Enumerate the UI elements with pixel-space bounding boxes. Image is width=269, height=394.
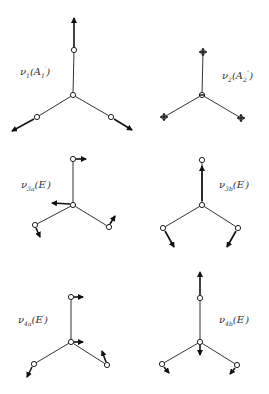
symmetry-species: A [34,66,41,77]
displacement-arrow-icon [114,119,132,130]
symmetry-prime: ′ [43,313,44,320]
symmetry-prime: ′ [45,65,46,72]
terminal-atom [32,222,37,227]
mode-v2-molecule [160,48,245,122]
terminal-atom [199,157,204,162]
central-atom [70,202,75,207]
mode-label-v3b: ν3b(E′) [219,178,249,192]
symmetry-species: A [236,70,243,81]
symmetry-subscript: 2 [243,76,247,83]
displacement-arrow-icon [27,367,32,377]
mode-label-v1: ν1(A1′) [20,65,50,79]
vibrational-modes-diagram [0,0,269,394]
displacement-arrow-icon [12,119,34,131]
mode-label-v4b: ν4b(E′) [219,313,249,327]
terminal-atom [106,224,111,229]
symmetry-prime: ′ [244,313,245,320]
mode-index: 3a [27,185,34,192]
displacement-arrow-icon [230,368,235,374]
mode-label-v3a: ν3a(E′) [21,178,51,192]
mode-v3a-molecule [32,156,115,237]
terminal-atom [235,225,240,230]
terminal-atom [108,114,113,119]
central-atom [68,339,73,344]
displacement-arrow-icon [52,203,70,204]
terminal-atom [104,362,109,367]
central-atom [70,92,75,97]
plus-out-of-plane-icon [199,48,207,56]
symmetry-prime: ″ [247,69,249,76]
symmetry-species: E [237,179,244,190]
displacement-arrow-icon [165,231,174,247]
terminal-atom [197,295,202,300]
displacement-arrow-icon [102,351,106,362]
displacement-arrow-icon [227,231,236,247]
mode-index: 4b [225,320,233,327]
terminal-atom [31,361,36,366]
displacement-arrow-icon [36,228,40,237]
symmetry-species: E [35,314,42,325]
plus-out-of-plane-icon [237,114,245,122]
terminal-atom [159,361,164,366]
terminal-atom [34,114,39,119]
terminal-atom [234,362,239,367]
central-atom [197,339,202,344]
symmetry-species: E [237,314,244,325]
displacement-arrow-icon [110,216,115,224]
mode-index: 3b [225,185,233,192]
symmetry-species: E [38,179,45,190]
mode-label-v2: ν2(A2″) [222,69,253,83]
mode-v3b-molecule [160,157,240,247]
symmetry-prime: ′ [46,178,47,185]
terminal-atom [70,156,75,161]
symmetry-subscript: 1 [41,72,45,79]
terminal-atom [160,225,165,230]
symmetry-prime: ′ [244,178,245,185]
mode-index: 4a [24,320,31,327]
plus-out-of-plane-icon [160,113,168,121]
terminal-atom [68,294,73,299]
mode-index: 2 [228,76,232,83]
mode-index: 1 [26,72,30,79]
mode-label-v4a: ν4a(E′) [18,313,48,327]
terminal-atom [71,47,76,52]
mode-v4a-molecule [27,294,110,377]
displacement-arrow-icon [164,367,169,373]
central-atom [199,202,204,207]
